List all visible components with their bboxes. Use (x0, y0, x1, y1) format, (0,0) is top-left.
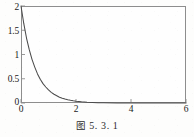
caption-prefix: 图 (76, 120, 87, 131)
y-tick-label-1-5: 1.5 (0, 27, 19, 37)
figure-container: 2 1.5 1 0.5 0 0 2 4 6 (0, 0, 194, 137)
x-tick-label-2: 2 (69, 105, 83, 115)
y-tick-label-0-5: 0.5 (0, 75, 19, 85)
plot-canvas (21, 6, 186, 103)
figure-caption: 图 5. 3. 1 (0, 120, 194, 132)
y-axis-labels: 2 1.5 1 0.5 0 (0, 0, 19, 137)
y-tick-label-2: 2 (0, 3, 19, 13)
decay-curve (21, 6, 186, 103)
x-tick-label-0: 0 (14, 105, 28, 115)
caption-number: 5. 3. 1 (89, 120, 118, 131)
x-tick-label-6: 6 (179, 105, 193, 115)
x-tick-label-4: 4 (124, 105, 138, 115)
y-tick-label-1: 1 (0, 51, 19, 61)
